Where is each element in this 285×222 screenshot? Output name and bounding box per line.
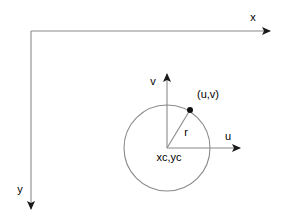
diagram-svg: x y u v r (u,v) xc,yc [0,0,285,222]
x-axis-label: x [250,11,256,23]
point-marker-dot [187,107,193,113]
v-axis-label: v [150,75,156,87]
point-coordinates-label: (u,v) [197,88,219,100]
figure-canvas: x y u v r (u,v) xc,yc [0,0,285,222]
y-axis-label: y [17,183,23,195]
u-axis-label: u [225,130,231,142]
circle-center-label: xc,yc [156,151,182,163]
radius-label: r [184,126,188,138]
